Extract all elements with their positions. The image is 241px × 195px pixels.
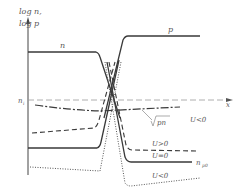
label-u-pos: U>0: [152, 140, 169, 148]
curve-u-pos-n-side: [32, 62, 115, 133]
sqrt-pn-leader: [142, 110, 152, 120]
label-u-zero: U=0: [152, 152, 169, 160]
curve-u-pos-p-side: [109, 62, 198, 151]
label-u-neg-top: U<0: [190, 116, 207, 124]
ni-subscript: i: [23, 101, 25, 106]
pn-junction-diagram: log n, log p x n i n p pn U<0 U>0 U=0 n …: [0, 0, 241, 195]
x-axis-label: x: [226, 101, 230, 109]
label-np0-subscript: p0: [202, 163, 208, 168]
label-np0: n: [196, 159, 201, 167]
y-axis-label-logp: log p: [19, 19, 39, 28]
label-sqrt-pn: pn: [157, 119, 166, 127]
y-axis-label-logn: log n,: [19, 7, 42, 16]
label-n: n: [60, 41, 65, 50]
label-p: p: [168, 25, 173, 34]
diagram-canvas: log n, log p x n i n p pn U<0 U>0 U=0 n …: [0, 0, 241, 195]
label-u-neg-bottom: U<0: [152, 172, 169, 180]
